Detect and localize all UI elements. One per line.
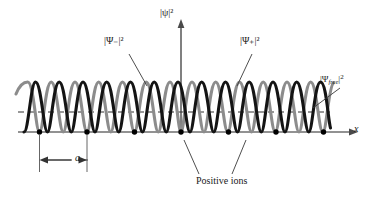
ion-dot (178, 129, 183, 134)
lattice-constant-label: a (75, 153, 80, 163)
figure-canvas (0, 0, 374, 197)
psi-plus-label: |Ψ₊|² (240, 36, 259, 46)
leader-ion-right (232, 140, 246, 174)
ion-dot (321, 129, 326, 134)
psi-free-subscript: free (328, 78, 338, 85)
y-axis-label: |ψ|² (160, 8, 173, 18)
positive-ions-caption: Positive ions (196, 176, 247, 186)
leader-ion-left (184, 140, 199, 174)
dimension-arrow-left (40, 157, 49, 164)
ion-dot (273, 129, 278, 134)
wavefunction-periodic-lattice-figure: |ψ|² |Ψ₋|² |Ψ₊|² |Ψfree|2 x a Positive i… (0, 0, 374, 197)
x-axis-label: x (354, 124, 358, 134)
y-axis-arrowhead (178, 19, 185, 28)
psi-minus-label: |Ψ₋|² (104, 36, 123, 46)
ion-dot (37, 129, 42, 134)
lattice-constant-marker (40, 134, 109, 172)
ion-dot (84, 129, 89, 134)
ion-dot (226, 129, 231, 134)
psi-free-label: |Ψfree|2 (320, 74, 344, 85)
ion-dot (132, 129, 137, 134)
